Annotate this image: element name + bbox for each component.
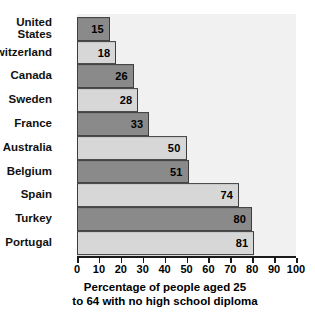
- category-label: Belgium: [0, 166, 52, 178]
- bar-chart: United States15Switzerland18Canada26Swed…: [0, 0, 315, 314]
- bar-row: Canada26: [0, 65, 296, 89]
- bar: 80: [77, 207, 252, 231]
- bar-value-label: 50: [168, 142, 186, 154]
- bar-value-label: 15: [91, 23, 109, 35]
- bar-value-label: 81: [236, 237, 254, 249]
- bar-value-label: 26: [115, 70, 133, 82]
- bar-row: France33: [0, 112, 296, 136]
- bar: 33: [77, 112, 149, 136]
- bar: 51: [77, 160, 189, 184]
- category-label: Australia: [0, 142, 52, 154]
- bar-row: Australia50: [0, 136, 296, 160]
- category-label: Sweden: [0, 94, 52, 106]
- bar-rows: United States15Switzerland18Canada26Swed…: [0, 17, 296, 255]
- bar-row: Portugal81: [0, 231, 296, 255]
- bar: 74: [77, 184, 239, 208]
- bar-row: Belgium51: [0, 160, 296, 184]
- bar-row: United States15: [0, 17, 296, 41]
- bar: 26: [77, 65, 134, 89]
- bar-row: Turkey80: [0, 207, 296, 231]
- category-label: Turkey: [0, 213, 52, 225]
- bar: 18: [77, 41, 116, 65]
- bar: 81: [77, 231, 254, 255]
- bar-value-label: 33: [131, 118, 149, 130]
- bar-row: Switzerland18: [0, 41, 296, 65]
- bar: 50: [77, 136, 187, 160]
- bar: 28: [77, 88, 138, 112]
- category-label: France: [0, 118, 52, 130]
- x-axis-caption: Percentage of people aged 25 to 64 with …: [40, 281, 290, 308]
- caption-line-1: Percentage of people aged 25: [40, 281, 290, 295]
- category-label: Switzerland: [0, 47, 52, 59]
- bar-value-label: 51: [170, 166, 188, 178]
- x-axis-tick-label: 100: [276, 263, 315, 275]
- bar-value-label: 28: [120, 94, 138, 106]
- category-label: Portugal: [0, 237, 52, 249]
- bar: 15: [77, 17, 110, 41]
- caption-line-2: to 64 with no high school diploma: [40, 295, 290, 309]
- bar-row: Sweden28: [0, 88, 296, 112]
- bar-value-label: 18: [98, 47, 116, 59]
- category-label: Spain: [0, 190, 52, 202]
- bar-value-label: 80: [234, 213, 252, 225]
- category-label: United States: [0, 17, 52, 41]
- bar-value-label: 74: [220, 189, 238, 201]
- category-label: Canada: [0, 71, 52, 83]
- bar-row: Spain74: [0, 184, 296, 208]
